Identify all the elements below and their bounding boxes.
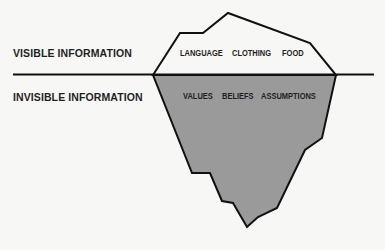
iceberg-diagram xyxy=(0,0,385,250)
above-item-clothing: CLOTHING xyxy=(232,48,271,58)
invisible-information-label: INVISIBLE INFORMATION xyxy=(13,91,143,103)
below-item-beliefs: BELIEFS xyxy=(222,91,254,101)
iceberg-tip xyxy=(153,13,336,75)
below-item-values: VALUES xyxy=(183,91,213,101)
visible-information-label: VISIBLE INFORMATION xyxy=(13,47,132,59)
above-item-food: FOOD xyxy=(282,48,304,58)
below-item-assumptions: ASSUMPTIONS xyxy=(261,91,316,101)
above-item-language: LANGUAGE xyxy=(180,48,223,58)
